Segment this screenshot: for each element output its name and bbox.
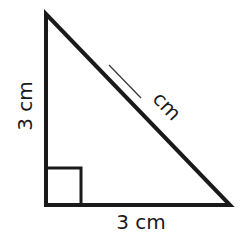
right-angle-marker: [46, 168, 81, 205]
triangle-outline: [46, 14, 230, 205]
hypotenuse-unit-label: cm: [148, 87, 186, 126]
left-side-length-label: 3 cm: [13, 81, 37, 131]
bottom-side-length-label: 3 cm: [116, 210, 166, 234]
right-triangle-diagram: cm 3 cm 3 cm: [0, 0, 244, 237]
